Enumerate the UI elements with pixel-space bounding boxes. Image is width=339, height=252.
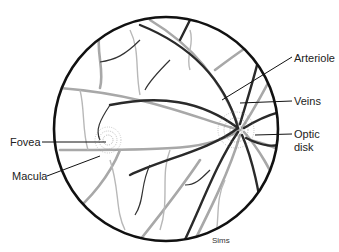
credit-text: Sims — [212, 236, 230, 245]
label-arteriole: Arteriole — [294, 52, 335, 64]
label-macula: Macula — [12, 170, 47, 182]
label-optic: Optic — [294, 128, 320, 140]
label-veins: Veins — [294, 95, 321, 107]
retina-diagram — [0, 0, 339, 252]
label-fovea: Fovea — [10, 136, 41, 148]
label-disk: disk — [294, 141, 314, 153]
